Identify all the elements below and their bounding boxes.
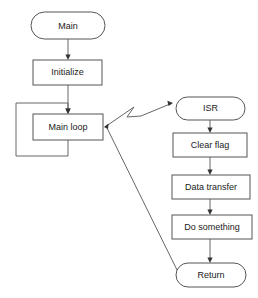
node-main-loop-label: Main loop — [48, 122, 87, 132]
node-initialize-label: Initialize — [51, 67, 84, 77]
edge-return-to-main-loop — [104, 124, 178, 272]
node-initialize[interactable]: Initialize — [33, 60, 102, 85]
flowchart-diagram: Main Initialize Main loop ISR Clear flag… — [0, 0, 258, 298]
node-isr[interactable]: ISR — [176, 97, 245, 120]
edge-main-loop-to-isr-interrupt — [105, 101, 173, 127]
edge-do-something-to-return — [207, 239, 212, 263]
node-data-transfer-label: Data transfer — [185, 182, 237, 192]
edge-isr-to-clear-flag — [207, 120, 212, 133]
edge-main-to-initialize — [65, 39, 70, 60]
edge-clear-flag-to-data-transfer — [207, 157, 212, 175]
node-clear-flag[interactable]: Clear flag — [173, 133, 247, 157]
node-return-label: Return — [197, 270, 224, 280]
node-isr-label: ISR — [203, 103, 219, 113]
node-do-something-label: Do something — [184, 222, 240, 232]
node-main[interactable]: Main — [31, 12, 105, 39]
node-clear-flag-label: Clear flag — [191, 140, 230, 150]
node-main-loop[interactable]: Main loop — [33, 114, 103, 140]
edge-data-transfer-to-do-something — [207, 199, 212, 215]
node-do-something[interactable]: Do something — [172, 215, 252, 239]
flowchart-canvas: Main Initialize Main loop ISR Clear flag… — [0, 0, 258, 298]
node-data-transfer[interactable]: Data transfer — [172, 175, 250, 199]
node-main-label: Main — [58, 21, 78, 31]
node-return[interactable]: Return — [176, 263, 246, 287]
